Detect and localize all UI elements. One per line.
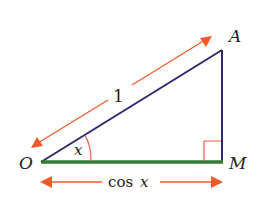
vertex-label-O: O [19,153,33,173]
right-angle-mark-icon [204,141,221,161]
triangle-diagram: A O M x 1 cos x [0,0,263,199]
base-label-var: x [140,173,149,191]
vertex-label-M: M [228,153,247,173]
base-label-func: cos [108,173,133,191]
hypotenuse-label: 1 [113,86,124,106]
arrowhead-icon [40,176,52,188]
arrowhead-icon [31,137,43,148]
vertex-label-A: A [227,26,241,46]
angle-label: x [74,141,83,159]
angle-arc-icon [85,135,91,161]
arrowhead-icon [211,176,223,188]
hypotenuse-OA [41,50,222,162]
base-label: cos x [108,173,149,191]
